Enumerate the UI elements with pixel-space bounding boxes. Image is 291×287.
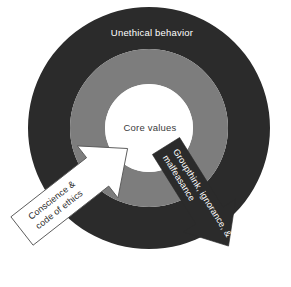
outer-ring-label: Unethical behavior: [111, 27, 193, 38]
core-circle-label: Core values: [124, 122, 177, 133]
ethics-cycle-diagram: Unethical behavior Core values Groupthin…: [0, 0, 291, 287]
diagram-canvas: Unethical behavior Core values Groupthin…: [0, 0, 291, 287]
